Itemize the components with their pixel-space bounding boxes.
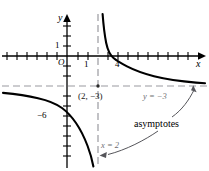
y-axis-arrowhead	[63, 14, 71, 22]
horizontal-asymptote-label: y = −3	[143, 92, 167, 101]
curve-right-branch	[103, 14, 205, 83]
x-tick-label-1: 1	[84, 60, 89, 69]
x-axis-label: x	[196, 59, 200, 69]
origin-label: O	[58, 58, 65, 67]
center-point-label: (2, −3)	[78, 92, 103, 101]
asymptotes-callout-label: asymptotes	[134, 119, 179, 129]
callout-arrow-vertical-head	[100, 152, 107, 158]
center-point-marker	[96, 84, 99, 87]
callout-arrow-horizontal-curve	[172, 90, 194, 117]
y-tick-label-1: 1	[55, 41, 60, 50]
y-axis-label: y	[58, 13, 62, 23]
y-intercept-label-minus6: −6	[37, 111, 47, 120]
x-intercept-label-4: 4	[115, 60, 120, 69]
rational-function-graph-figure: x y O 1 1 4 −6 (2, −3) y = −3 x = 2 asym…	[0, 0, 209, 171]
curve-left-branch	[3, 93, 93, 167]
vertical-asymptote-label: x = 2	[101, 141, 119, 150]
